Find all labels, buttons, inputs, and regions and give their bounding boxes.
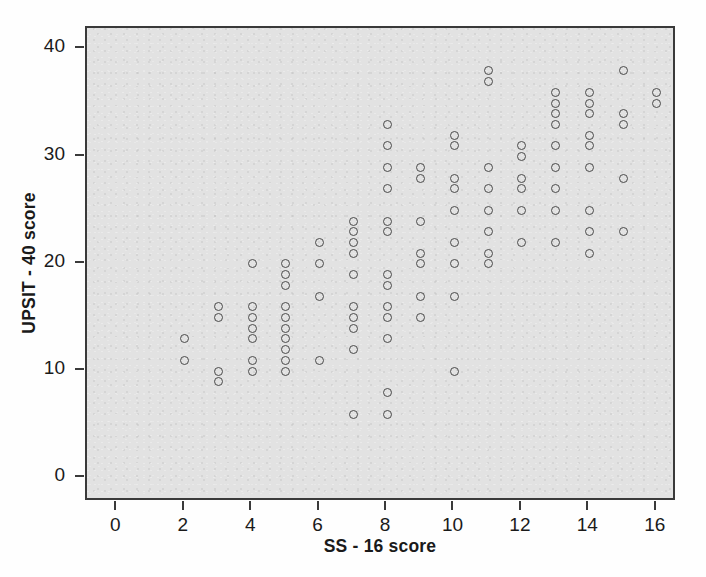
x-tick-label: 4	[230, 514, 270, 536]
data-point	[585, 249, 594, 258]
data-point	[248, 259, 257, 268]
data-point	[349, 270, 358, 279]
x-tick-label: 2	[163, 514, 203, 536]
data-point	[281, 324, 290, 333]
data-point	[315, 259, 324, 268]
data-point	[551, 184, 560, 193]
data-point	[585, 131, 594, 140]
data-point	[551, 99, 560, 108]
data-point	[214, 313, 223, 322]
data-point	[349, 410, 358, 419]
data-point	[416, 259, 425, 268]
data-point	[349, 324, 358, 333]
plot-area	[85, 26, 675, 500]
data-point	[214, 367, 223, 376]
data-point	[281, 367, 290, 376]
data-point	[416, 313, 425, 322]
x-tick-label: 16	[635, 514, 675, 536]
data-point	[214, 377, 223, 386]
data-point	[484, 184, 493, 193]
x-axis-title: SS - 16 score	[85, 536, 675, 557]
data-point	[551, 238, 560, 247]
data-point	[349, 313, 358, 322]
paper-grain-texture	[87, 28, 673, 498]
data-point	[248, 367, 257, 376]
data-point	[416, 174, 425, 183]
data-point	[383, 184, 392, 193]
x-tick-mark	[114, 501, 116, 510]
y-tick-label: 0	[17, 464, 65, 486]
data-point	[551, 109, 560, 118]
data-point	[383, 227, 392, 236]
x-tick-label: 10	[432, 514, 472, 536]
data-point	[281, 270, 290, 279]
data-point	[349, 227, 358, 236]
data-point	[652, 99, 661, 108]
x-tick-label: 6	[298, 514, 338, 536]
data-point	[450, 367, 459, 376]
data-point	[551, 120, 560, 129]
y-tick-mark	[75, 154, 84, 156]
data-point	[619, 120, 628, 129]
data-point	[619, 174, 628, 183]
data-point	[585, 163, 594, 172]
data-point	[484, 163, 493, 172]
data-point	[349, 217, 358, 226]
data-point	[383, 302, 392, 311]
data-point	[281, 281, 290, 290]
data-point	[517, 152, 526, 161]
data-point	[619, 66, 628, 75]
data-point	[281, 302, 290, 311]
data-point	[416, 292, 425, 301]
data-point	[383, 270, 392, 279]
x-tick-label: 0	[95, 514, 135, 536]
data-point	[349, 302, 358, 311]
x-tick-label: 8	[365, 514, 405, 536]
data-point	[450, 184, 459, 193]
data-point	[349, 345, 358, 354]
data-point	[248, 313, 257, 322]
x-tick-label: 14	[567, 514, 607, 536]
y-tick-label: 30	[17, 143, 65, 165]
data-point	[180, 356, 189, 365]
data-point	[383, 410, 392, 419]
x-tick-mark	[384, 501, 386, 510]
data-point	[450, 238, 459, 247]
data-point	[652, 88, 661, 97]
data-point	[551, 163, 560, 172]
x-tick-mark	[586, 501, 588, 510]
data-point	[315, 292, 324, 301]
data-point	[450, 292, 459, 301]
x-tick-mark	[451, 501, 453, 510]
data-point	[383, 120, 392, 129]
data-point	[248, 356, 257, 365]
data-point	[214, 302, 223, 311]
data-point	[349, 249, 358, 258]
data-point	[484, 77, 493, 86]
data-point	[383, 163, 392, 172]
x-tick-mark	[519, 501, 521, 510]
y-tick-mark	[75, 261, 84, 263]
data-point	[383, 141, 392, 150]
data-point	[517, 184, 526, 193]
data-point	[383, 313, 392, 322]
data-point	[349, 238, 358, 247]
data-point	[416, 163, 425, 172]
data-point	[551, 88, 560, 97]
data-point	[585, 227, 594, 236]
data-point	[248, 302, 257, 311]
data-point	[551, 206, 560, 215]
data-point	[248, 334, 257, 343]
data-point	[383, 281, 392, 290]
data-point	[383, 388, 392, 397]
data-point	[416, 217, 425, 226]
data-point	[281, 259, 290, 268]
data-point	[450, 174, 459, 183]
data-point	[383, 217, 392, 226]
data-point	[585, 109, 594, 118]
x-tick-mark	[249, 501, 251, 510]
data-point	[281, 334, 290, 343]
data-point	[315, 238, 324, 247]
data-point	[517, 238, 526, 247]
data-point	[315, 356, 324, 365]
